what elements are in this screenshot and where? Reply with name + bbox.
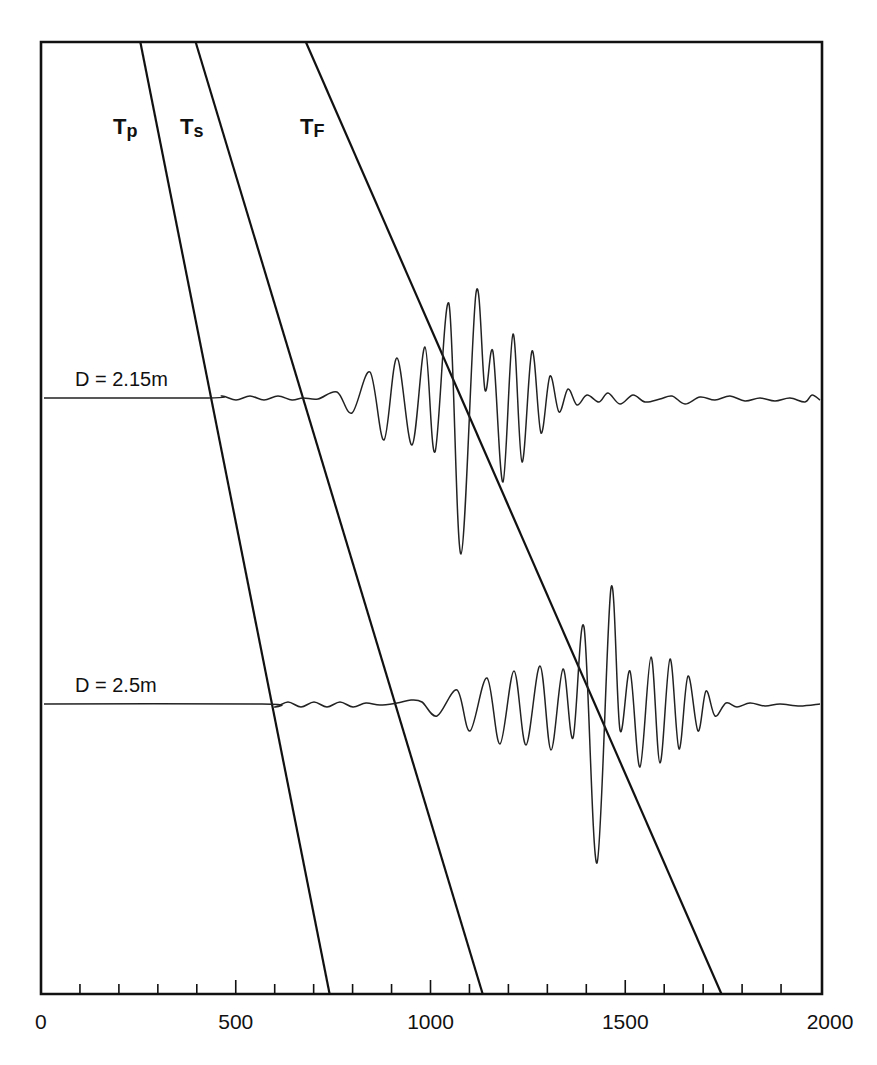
arrival-label-tf: TF [300,114,324,141]
arrival-line-tf [306,42,722,994]
arrival-line-ts [196,42,483,994]
arrival-line-tp [140,42,329,994]
x-tick-label: 500 [218,1010,253,1033]
seismogram-chart: 0500100015002000 TpTsTF D = 2.15mD = 2.5… [0,0,877,1065]
x-tick-label: 0 [35,1010,47,1033]
arrival-label-tp: Tp [113,114,137,141]
waveform-trace-2 [44,586,820,863]
x-axis-ticks [80,980,781,994]
plot-frame [41,42,822,994]
trace-labels: D = 2.15mD = 2.5m [75,368,168,696]
x-axis-tick-labels: 0500100015002000 [35,1010,853,1033]
trace-distance-label: D = 2.5m [75,674,157,696]
x-tick-label: 1000 [407,1010,454,1033]
arrival-label-ts: Ts [180,114,203,141]
trace-distance-label: D = 2.15m [75,368,168,390]
x-tick-label: 1500 [602,1010,649,1033]
frame-border [41,42,822,994]
x-tick-label: 2000 [807,1010,854,1033]
arrival-time-lines [140,42,721,994]
